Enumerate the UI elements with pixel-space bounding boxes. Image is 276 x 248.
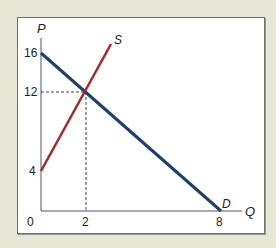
supply-label: S [114,33,122,47]
x-tick-8: 8 [216,215,223,229]
demand-label: D [222,197,231,211]
y-tick-16: 16 [24,46,38,60]
demand-curve [41,53,221,211]
origin-label: 0 [27,215,34,229]
supply-demand-chart: P Q 16 12 4 0 2 8 S D [0,0,276,248]
y-tick-4: 4 [29,164,36,178]
x-tick-2: 2 [82,215,89,229]
x-axis-label: Q [245,204,255,219]
y-tick-12: 12 [24,85,38,99]
y-axis-label: P [37,21,46,36]
